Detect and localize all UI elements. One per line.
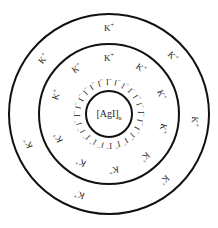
potassium-ion: K+	[189, 116, 201, 127]
iodide-ion: I−	[71, 118, 83, 127]
iodide-ion: I−	[71, 110, 82, 117]
potassium-ion: K+	[21, 136, 35, 150]
iodide-ion: I−	[105, 142, 112, 153]
iodide-ion: I−	[137, 111, 148, 118]
potassium-ion: K+	[108, 164, 119, 176]
potassium-ion: K+	[104, 52, 115, 63]
potassium-ion: K+	[138, 150, 153, 165]
potassium-ion: K+	[166, 49, 181, 64]
iodide-ion: I−	[113, 140, 122, 152]
potassium-ion: K+	[49, 88, 63, 102]
iodide-ion: I−	[106, 76, 113, 87]
core-formula: [AgI]	[96, 108, 118, 119]
potassium-ion: K+	[157, 122, 170, 135]
iodide-ion: I−	[96, 76, 105, 88]
potassium-ion: K+	[134, 60, 149, 75]
core-label: [AgI]n	[96, 108, 121, 121]
potassium-ion: K+	[69, 60, 84, 75]
potassium-ion: K+	[104, 22, 115, 33]
potassium-ion: K+	[73, 155, 88, 170]
iodide-ion: I−	[135, 101, 147, 110]
potassium-ion: K+	[157, 173, 172, 188]
core-subscript: n	[119, 115, 122, 121]
colloid-diagram: I−I−I−I−I−I−I−I−I−I−I−I−I−I−I−I−I−I−I−I−…	[0, 0, 218, 228]
potassium-ion: K+	[35, 51, 50, 66]
potassium-ion: K+	[72, 188, 86, 202]
potassium-ion: K+	[50, 131, 64, 145]
potassium-ion: K+	[155, 88, 169, 102]
